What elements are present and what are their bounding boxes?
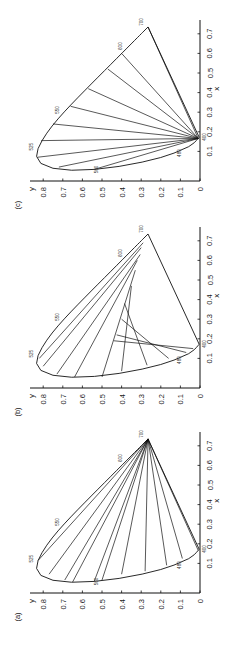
chord-line [73,439,148,582]
x-tick-label: 0.1 [206,146,215,156]
wavelength-label: 700 [139,430,144,438]
x-tick-label: 0.5 [206,68,215,78]
wavelength-label: 400 [202,545,207,553]
chord-line [114,341,193,349]
chord-line [37,138,198,157]
y-tick-label: 0.1 [176,187,185,197]
y-tick-label: 0.7 [59,394,68,404]
wavelength-label: 700 [139,225,144,233]
wavelength-label: 500 [94,577,99,585]
chord-line [148,27,198,139]
x-tick-label: 0.5 [206,480,215,490]
chord-line [125,304,148,366]
x-tick-label: 0.7 [206,29,215,39]
chord-line [122,439,148,574]
y-tick-label: 0.3 [137,599,146,609]
chord-line [94,138,198,169]
chord-line [122,53,199,138]
x-tick-label: 0.5 [206,275,215,285]
x-tick-label: 0.3 [206,519,215,529]
y-axis-label: y [27,599,36,603]
wavelength-label: 480 [177,149,182,157]
y-axis-label: y [27,394,36,398]
y-tick-label: 0.6 [78,599,87,609]
wavelength-label: 525 [29,142,34,150]
x-tick-label: 0.1 [206,353,215,363]
wavelength-label: 550 [55,313,60,321]
panel-a: 00.10.20.30.40.50.60.70.80.10.20.30.40.5… [13,430,221,622]
chord-line [102,270,135,377]
x-tick-label: 0.6 [206,460,215,470]
chord-line [117,335,187,353]
panel-label: (a) [13,612,22,622]
chord-line [148,439,167,565]
y-tick-label: 0.7 [59,187,68,197]
y-tick-label: 0.4 [118,599,127,609]
wavelength-label: 400 [202,133,207,141]
chord-line [148,439,182,559]
x-tick-label: 0.7 [206,441,215,451]
chord-line [71,106,199,138]
y-tick-label: 0.2 [157,394,166,404]
wavelength-label: 525 [29,554,34,562]
y-tick-label: 0.8 [39,599,48,609]
y-tick-label: 0.3 [137,187,146,197]
x-tick-label: 0.6 [206,255,215,265]
wavelength-label: 600 [118,249,123,257]
panel-b: 00.10.20.30.40.50.60.70.80.10.20.30.40.5… [13,225,221,417]
chord-line [38,439,148,561]
chord-line [53,124,198,139]
x-tick-label: 0.3 [206,314,215,324]
wavelength-label: 480 [177,561,182,569]
chord-line [102,439,148,580]
wavelength-label: 600 [118,454,123,462]
y-tick-label: 0.1 [176,599,185,609]
chord-line [41,138,198,140]
y-tick-label: 0.8 [39,394,48,404]
chord-line [49,439,148,574]
y-tick-label: 0 [196,394,205,398]
chord-line [122,319,169,358]
chord-line [148,439,198,551]
wavelength-label: 525 [29,349,34,357]
y-tick-label: 0.4 [118,187,127,197]
x-axis-label: x [212,294,221,298]
wavelength-label: 550 [55,518,60,526]
wavelength-label: 480 [177,356,182,364]
y-tick-label: 0 [196,599,205,603]
y-axis-label: y [27,187,36,191]
x-tick-label: 0.3 [206,107,215,117]
y-tick-label: 0.5 [98,187,107,197]
y-tick-label: 0.5 [98,394,107,404]
figure-canvas: 00.10.20.30.40.50.60.70.80.10.20.30.40.5… [0,0,226,646]
wavelength-label: 600 [118,42,123,50]
chord-line [39,243,143,359]
chord-line [43,248,141,367]
wavelength-label: 500 [94,165,99,173]
x-axis-label: x [212,87,221,91]
y-tick-label: 0 [196,187,205,191]
y-tick-label: 0.8 [39,187,48,197]
y-tick-label: 0.4 [118,394,127,404]
y-tick-label: 0.6 [78,394,87,404]
x-axis-label: x [212,499,221,503]
x-tick-label: 0.1 [206,558,215,568]
y-tick-label: 0.2 [157,187,166,197]
y-tick-label: 0.3 [137,394,146,404]
panel-label: (c) [13,200,22,209]
panel-c: 00.10.20.30.40.50.60.70.80.10.20.30.40.5… [13,18,221,210]
chord-line [145,439,148,571]
y-tick-label: 0.7 [59,599,68,609]
wavelength-label: 400 [202,340,207,348]
y-tick-label: 0.5 [98,599,107,609]
x-tick-label: 0.6 [206,48,215,58]
wavelength-label: 700 [139,18,144,26]
chord-line [57,255,140,375]
y-tick-label: 0.1 [176,394,185,404]
y-tick-label: 0.6 [78,187,87,197]
x-tick-label: 0.7 [206,236,215,246]
panel-label: (b) [13,407,22,417]
chord-line [65,439,148,580]
wavelength-label: 550 [55,106,60,114]
chromaticity-figure: 00.10.20.30.40.50.60.70.80.10.20.30.40.5… [0,0,226,646]
